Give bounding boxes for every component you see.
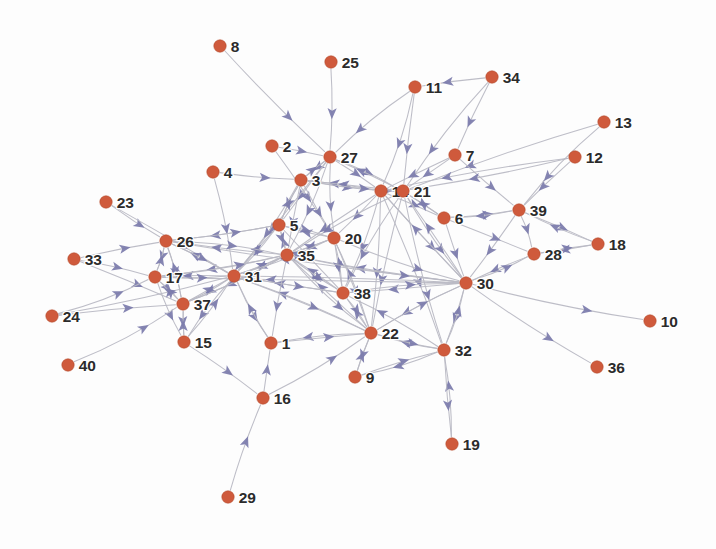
node-dot-35[interactable] bbox=[281, 249, 293, 261]
node-dot-25[interactable] bbox=[325, 56, 337, 68]
node-dot-13[interactable] bbox=[598, 116, 610, 128]
node-dot-33[interactable] bbox=[68, 253, 80, 265]
graph-node-16[interactable]: 16 bbox=[257, 390, 292, 407]
graph-node-40[interactable]: 40 bbox=[62, 357, 96, 374]
edge-arrowhead-30-to-21 bbox=[422, 220, 436, 234]
node-dot-24[interactable] bbox=[46, 310, 58, 322]
graph-node-26[interactable]: 26 bbox=[160, 233, 195, 250]
edge-arrowhead-2-to-27 bbox=[295, 146, 308, 157]
edge-arrowhead-34-to-11 bbox=[442, 77, 454, 88]
graph-node-37[interactable]: 37 bbox=[177, 296, 211, 313]
graph-node-30[interactable]: 30 bbox=[460, 275, 494, 292]
graph-node-2[interactable]: 2 bbox=[266, 138, 292, 155]
node-dot-4[interactable] bbox=[207, 166, 219, 178]
edge-30-to-22 bbox=[377, 286, 460, 330]
graph-node-8[interactable]: 8 bbox=[214, 38, 240, 55]
node-dot-6[interactable] bbox=[438, 212, 450, 224]
node-label-28: 28 bbox=[545, 246, 563, 263]
graph-node-12[interactable]: 12 bbox=[569, 149, 603, 166]
node-dot-19[interactable] bbox=[446, 438, 458, 450]
node-label-39: 39 bbox=[530, 202, 548, 219]
graph-node-28[interactable]: 28 bbox=[528, 246, 563, 263]
node-dot-38[interactable] bbox=[337, 287, 349, 299]
graph-node-35[interactable]: 35 bbox=[281, 247, 316, 264]
node-label-3: 3 bbox=[312, 172, 321, 189]
node-dot-10[interactable] bbox=[644, 315, 656, 327]
edge-arrowhead-31-to-22 bbox=[307, 301, 321, 314]
node-dot-31[interactable] bbox=[228, 270, 240, 282]
node-label-38: 38 bbox=[354, 285, 372, 302]
graph-node-13[interactable]: 13 bbox=[598, 114, 633, 131]
edge-30-to-10 bbox=[473, 284, 643, 319]
node-dot-11[interactable] bbox=[409, 81, 421, 93]
graph-node-36[interactable]: 36 bbox=[591, 359, 626, 376]
node-label-32: 32 bbox=[455, 342, 472, 359]
node-dot-26[interactable] bbox=[160, 235, 172, 247]
node-dot-18[interactable] bbox=[592, 238, 604, 250]
node-dot-36[interactable] bbox=[591, 361, 603, 373]
node-dot-3[interactable] bbox=[295, 174, 307, 186]
graph-node-10[interactable]: 10 bbox=[644, 313, 678, 330]
graph-node-31[interactable]: 31 bbox=[228, 268, 263, 285]
node-dot-15[interactable] bbox=[178, 336, 190, 348]
node-label-20: 20 bbox=[345, 230, 362, 247]
graph-node-1[interactable]: 1 bbox=[265, 335, 291, 352]
graph-node-25[interactable]: 25 bbox=[325, 54, 360, 71]
node-label-12: 12 bbox=[586, 149, 603, 166]
node-dot-32[interactable] bbox=[438, 344, 450, 356]
node-dot-7[interactable] bbox=[449, 149, 461, 161]
node-dot-40[interactable] bbox=[62, 359, 74, 371]
graph-node-11[interactable]: 11 bbox=[409, 79, 443, 96]
node-dot-2[interactable] bbox=[266, 140, 278, 152]
graph-node-24[interactable]: 24 bbox=[46, 308, 81, 325]
node-dot-16[interactable] bbox=[257, 392, 269, 404]
edge-arrowhead-16-to-22 bbox=[325, 352, 339, 366]
node-dot-37[interactable] bbox=[177, 298, 189, 310]
graph-node-22[interactable]: 22 bbox=[365, 325, 399, 342]
graph-node-9[interactable]: 9 bbox=[349, 369, 375, 386]
node-dot-20[interactable] bbox=[328, 232, 340, 244]
graph-node-27[interactable]: 27 bbox=[324, 149, 358, 166]
node-dot-9[interactable] bbox=[349, 371, 361, 383]
graph-node-29[interactable]: 29 bbox=[222, 489, 257, 506]
graph-node-34[interactable]: 34 bbox=[486, 69, 521, 86]
edge-arrowhead-40-to-37 bbox=[137, 321, 151, 335]
node-dot-28[interactable] bbox=[528, 248, 540, 260]
edge-arrowhead-34-to-21 bbox=[425, 143, 439, 157]
graph-node-18[interactable]: 18 bbox=[592, 236, 627, 253]
graph-node-17[interactable]: 17 bbox=[149, 269, 183, 286]
node-dot-21[interactable] bbox=[397, 185, 409, 197]
graph-node-32[interactable]: 32 bbox=[438, 342, 472, 359]
node-label-21: 21 bbox=[414, 183, 432, 200]
node-dot-30[interactable] bbox=[460, 277, 472, 289]
node-dot-17[interactable] bbox=[149, 271, 161, 283]
node-label-18: 18 bbox=[609, 236, 627, 253]
node-label-29: 29 bbox=[239, 489, 257, 506]
edge-arrowhead-24-to-17 bbox=[112, 287, 126, 300]
node-dot-23[interactable] bbox=[100, 196, 112, 208]
node-dot-12[interactable] bbox=[569, 151, 581, 163]
node-dot-14[interactable] bbox=[375, 185, 387, 197]
node-dot-5[interactable] bbox=[273, 219, 285, 231]
graph-node-5[interactable]: 5 bbox=[273, 217, 299, 234]
edge-arrowhead-7-to-21 bbox=[420, 167, 434, 181]
graph-node-15[interactable]: 15 bbox=[178, 334, 213, 351]
node-dot-39[interactable] bbox=[513, 204, 525, 216]
graph-node-39[interactable]: 39 bbox=[513, 202, 548, 219]
node-dot-8[interactable] bbox=[214, 40, 226, 52]
edges-layer bbox=[58, 51, 643, 491]
node-dot-34[interactable] bbox=[486, 71, 498, 83]
node-dot-27[interactable] bbox=[324, 151, 336, 163]
edge-12-to-39 bbox=[524, 162, 570, 205]
node-dot-22[interactable] bbox=[365, 327, 377, 339]
node-dot-1[interactable] bbox=[265, 337, 277, 349]
graph-node-23[interactable]: 23 bbox=[100, 194, 135, 211]
node-dot-29[interactable] bbox=[222, 491, 234, 503]
graph-node-21[interactable]: 21 bbox=[397, 183, 432, 200]
graph-node-20[interactable]: 20 bbox=[328, 230, 362, 247]
graph-node-38[interactable]: 38 bbox=[337, 285, 372, 302]
graph-node-19[interactable]: 19 bbox=[446, 436, 481, 453]
graph-node-6[interactable]: 6 bbox=[438, 210, 464, 227]
network-graph-canvas: 1234567891011121314151617181920212223242… bbox=[0, 0, 716, 549]
graph-node-33[interactable]: 33 bbox=[68, 251, 103, 268]
